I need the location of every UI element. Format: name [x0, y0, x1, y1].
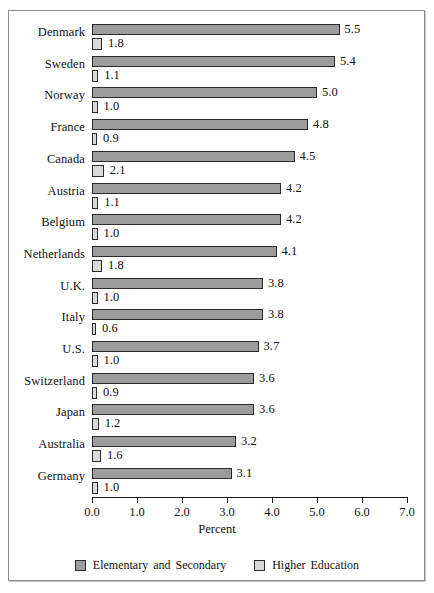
bar-elementary-secondary	[92, 151, 295, 162]
x-axis-tick-label: 4.0	[252, 505, 292, 520]
x-axis-title: Percent	[0, 522, 434, 537]
bar-higher-education	[92, 165, 104, 177]
bar-value-elementary-secondary: 4.8	[313, 117, 329, 132]
bar-elementary-secondary	[92, 341, 259, 352]
bar-value-elementary-secondary: 4.5	[300, 149, 316, 164]
bar-value-elementary-secondary: 3.6	[259, 402, 275, 417]
x-axis-tick-label: 7.0	[387, 505, 427, 520]
bar-elementary-secondary	[92, 468, 232, 479]
x-axis-tick	[407, 497, 408, 503]
bar-higher-education	[92, 482, 98, 494]
bar-elementary-secondary	[92, 119, 308, 130]
bar-value-higher-education: 1.0	[104, 353, 120, 368]
bar-higher-education	[92, 228, 98, 240]
bar-value-higher-education: 2.1	[110, 163, 126, 178]
category-label-france: France	[0, 120, 85, 134]
legend-item-elementary-secondary[interactable]: Elementary and Secondary	[75, 558, 226, 573]
bar-higher-education	[92, 133, 97, 145]
bar-elementary-secondary	[92, 373, 254, 384]
x-axis-tick	[137, 497, 138, 503]
bar-value-elementary-secondary: 5.4	[340, 54, 356, 69]
bar-higher-education	[92, 323, 96, 335]
bar-value-higher-education: 1.6	[107, 448, 123, 463]
bar-value-elementary-secondary: 5.5	[345, 22, 361, 37]
bar-value-higher-education: 1.1	[104, 68, 120, 83]
bar-value-higher-education: 0.9	[103, 385, 119, 400]
category-label-denmark: Denmark	[0, 25, 85, 39]
legend-label-elementary-secondary: Elementary and Secondary	[93, 558, 226, 573]
category-label-sweden: Sweden	[0, 57, 85, 71]
chart-row: Switzerland3.60.9	[0, 371, 434, 402]
legend-swatch-higher-education	[254, 560, 265, 571]
x-axis-tick-label: 3.0	[207, 505, 247, 520]
chart-row: Norway5.01.0	[0, 85, 434, 116]
bar-higher-education	[92, 355, 98, 367]
category-label-australia: Australia	[0, 437, 85, 451]
legend-label-higher-education: Higher Education	[272, 558, 359, 573]
bar-value-higher-education: 0.9	[103, 131, 119, 146]
x-axis-tick-label: 0.0	[72, 505, 112, 520]
chart-row: Italy3.80.6	[0, 307, 434, 338]
bar-elementary-secondary	[92, 214, 281, 225]
bar-value-elementary-secondary: 3.8	[268, 276, 284, 291]
category-label-italy: Italy	[0, 310, 85, 324]
chart-row: Denmark5.51.8	[0, 22, 434, 53]
bar-value-higher-education: 1.0	[104, 290, 120, 305]
bar-value-elementary-secondary: 3.8	[268, 307, 284, 322]
bar-higher-education	[92, 292, 98, 304]
x-axis-tick-label: 5.0	[297, 505, 337, 520]
category-label-canada: Canada	[0, 152, 85, 166]
x-axis-tick	[272, 497, 273, 503]
legend-item-higher-education[interactable]: Higher Education	[254, 558, 359, 573]
chart-row: Japan3.61.2	[0, 402, 434, 433]
category-label-belgium: Belgium	[0, 215, 85, 229]
chart-row: Germany3.11.0	[0, 466, 434, 497]
bar-higher-education	[92, 387, 97, 399]
bar-higher-education	[92, 197, 98, 209]
x-axis-tick	[362, 497, 363, 503]
bar-elementary-secondary	[92, 436, 236, 447]
bar-value-elementary-secondary: 3.2	[241, 434, 257, 449]
x-axis-tick	[92, 497, 93, 503]
chart-row: Belgium4.21.0	[0, 212, 434, 243]
bar-value-elementary-secondary: 4.1	[282, 244, 298, 259]
x-axis-tick	[317, 497, 318, 503]
category-label-netherlands: Netherlands	[0, 247, 85, 261]
bar-higher-education	[92, 101, 98, 113]
x-axis-tick-label: 6.0	[342, 505, 382, 520]
chart-row: Austria4.21.1	[0, 181, 434, 212]
legend-swatch-elementary-secondary	[75, 560, 86, 571]
x-axis-tick	[227, 497, 228, 503]
chart-row: Australia3.21.6	[0, 434, 434, 465]
chart-row: U.S.3.71.0	[0, 339, 434, 370]
bar-value-elementary-secondary: 3.1	[237, 466, 253, 481]
chart-legend: Elementary and Secondary Higher Educatio…	[0, 558, 434, 573]
chart-row: France4.80.9	[0, 117, 434, 148]
bar-higher-education	[92, 70, 98, 82]
bar-higher-education	[92, 260, 102, 272]
category-label-switzerland: Switzerland	[0, 374, 85, 388]
bar-elementary-secondary	[92, 278, 263, 289]
bar-value-elementary-secondary: 4.2	[286, 212, 302, 227]
bar-elementary-secondary	[92, 24, 340, 35]
chart-row: U.K.3.81.0	[0, 276, 434, 307]
category-label-u-k: U.K.	[0, 279, 85, 293]
bar-elementary-secondary	[92, 404, 254, 415]
chart-row: Netherlands4.11.8	[0, 244, 434, 275]
x-axis-line	[92, 497, 407, 498]
x-axis-tick-label: 2.0	[162, 505, 202, 520]
category-label-austria: Austria	[0, 184, 85, 198]
bar-value-higher-education: 1.0	[104, 226, 120, 241]
bar-value-higher-education: 1.2	[105, 416, 121, 431]
category-label-japan: Japan	[0, 405, 85, 419]
bar-higher-education	[92, 418, 99, 430]
bar-value-higher-education: 0.6	[102, 321, 118, 336]
bar-elementary-secondary	[92, 309, 263, 320]
bar-higher-education	[92, 450, 101, 462]
category-label-norway: Norway	[0, 88, 85, 102]
bar-value-elementary-secondary: 3.7	[264, 339, 280, 354]
x-axis-tick	[182, 497, 183, 503]
x-axis-tick-label: 1.0	[117, 505, 157, 520]
bar-value-higher-education: 1.0	[104, 99, 120, 114]
bar-chart-plot-area: Denmark5.51.8Sweden5.41.1Norway5.01.0Fra…	[0, 0, 434, 593]
